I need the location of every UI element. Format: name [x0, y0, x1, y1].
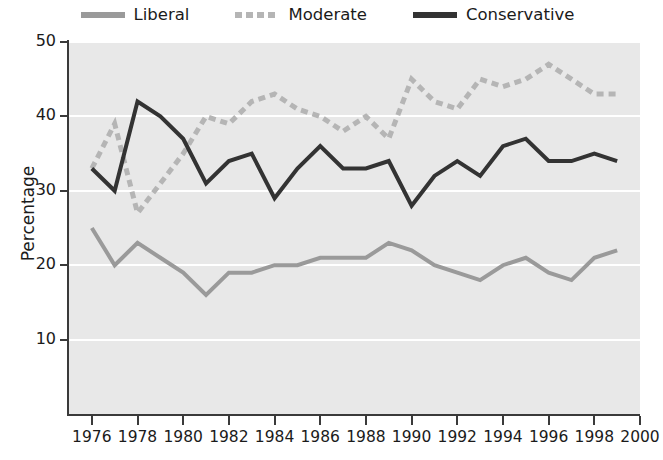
legend-item-conservative[interactable]: Conservative	[413, 7, 574, 24]
x-tick-label: 1976	[69, 430, 115, 446]
x-tick-label: 1996	[526, 430, 572, 446]
y-axis-line	[67, 40, 69, 416]
x-tick-mark	[639, 416, 641, 425]
legend-item-liberal[interactable]: Liberal	[81, 7, 190, 24]
y-tick-label: 50	[16, 33, 56, 49]
x-tick-label: 2000	[617, 430, 663, 446]
chart-legend: LiberalModerateConservative	[0, 0, 655, 30]
gridline	[69, 264, 640, 266]
x-tick-mark	[274, 416, 276, 425]
x-tick-label: 1986	[297, 430, 343, 446]
y-tick-label: 40	[16, 107, 56, 123]
gridline	[69, 41, 640, 43]
y-tick-label: 10	[16, 331, 56, 347]
legend-swatch-icon	[235, 12, 279, 18]
y-tick-mark	[60, 339, 67, 341]
y-tick-mark	[60, 41, 67, 43]
legend-label: Moderate	[288, 7, 366, 24]
gridline	[69, 115, 640, 117]
x-tick-label: 1978	[115, 430, 161, 446]
x-tick-mark	[365, 416, 367, 425]
x-tick-mark	[593, 416, 595, 425]
x-tick-label: 1990	[389, 430, 435, 446]
gridline	[69, 190, 640, 192]
y-axis-label: Percentage	[20, 124, 37, 304]
x-tick-mark	[411, 416, 413, 425]
x-tick-mark	[456, 416, 458, 425]
legend-item-moderate[interactable]: Moderate	[235, 7, 366, 24]
y-tick-mark	[60, 264, 67, 266]
x-tick-label: 1994	[480, 430, 526, 446]
y-tick-mark	[60, 115, 67, 117]
x-tick-mark	[182, 416, 184, 425]
x-tick-label: 1984	[252, 430, 298, 446]
legend-label: Conservative	[466, 7, 574, 24]
x-tick-mark	[548, 416, 550, 425]
plot-area	[69, 42, 640, 414]
x-tick-mark	[228, 416, 230, 425]
x-axis-line	[67, 414, 640, 416]
x-tick-label: 1982	[206, 430, 252, 446]
x-tick-label: 1992	[434, 430, 480, 446]
x-tick-mark	[502, 416, 504, 425]
x-tick-label: 1988	[343, 430, 389, 446]
legend-swatch-icon	[413, 12, 457, 18]
x-tick-label: 1998	[571, 430, 617, 446]
legend-label: Liberal	[134, 7, 190, 24]
gridline	[69, 339, 640, 341]
x-tick-mark	[91, 416, 93, 425]
y-tick-mark	[60, 190, 67, 192]
x-tick-label: 1980	[160, 430, 206, 446]
legend-swatch-icon	[81, 12, 125, 18]
x-tick-mark	[319, 416, 321, 425]
x-tick-mark	[137, 416, 139, 425]
